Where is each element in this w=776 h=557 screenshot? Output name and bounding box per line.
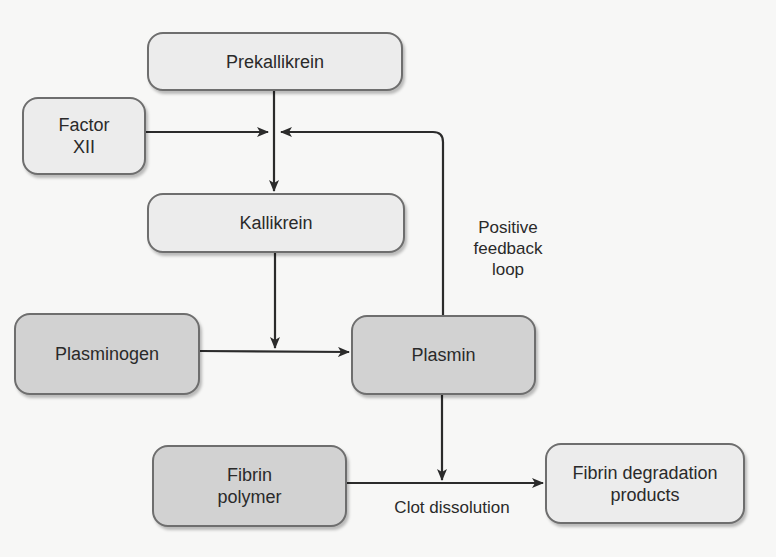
node-factor-xii-line1: Factor	[58, 114, 109, 136]
node-factor-xii: Factor XII	[22, 97, 146, 175]
node-plasmin-label: Plasmin	[411, 344, 475, 366]
node-plasminogen-label: Plasminogen	[55, 343, 159, 365]
node-factor-xii-line2: XII	[73, 136, 95, 158]
node-prekallikrein: Prekallikrein	[147, 32, 403, 91]
node-fibrin-degradation-products: Fibrin degradation products	[545, 443, 745, 524]
node-plasmin: Plasmin	[351, 315, 536, 395]
feedback-label-line1: Positive	[458, 217, 558, 238]
feedback-loop-label: Positive feedback loop	[458, 217, 558, 280]
node-plasminogen: Plasminogen	[14, 313, 200, 395]
node-kallikrein-label: Kallikrein	[239, 212, 312, 234]
node-fibrin-degradation-line2: products	[610, 484, 679, 506]
feedback-label-line3: loop	[458, 259, 558, 280]
node-fibrin-degradation-line1: Fibrin degradation	[572, 462, 717, 484]
feedback-label-line2: feedback	[458, 238, 558, 259]
node-fibrin-polymer-line1: Fibrin	[227, 464, 272, 486]
clot-dissolution-text: Clot dissolution	[394, 498, 509, 517]
arrow-plasminogen-to-plasmin	[200, 351, 349, 352]
node-fibrin-polymer-line2: polymer	[217, 486, 281, 508]
clot-dissolution-label: Clot dissolution	[372, 497, 532, 518]
node-prekallikrein-label: Prekallikrein	[226, 51, 324, 73]
node-fibrin-polymer: Fibrin polymer	[152, 445, 347, 527]
node-kallikrein: Kallikrein	[147, 193, 405, 253]
